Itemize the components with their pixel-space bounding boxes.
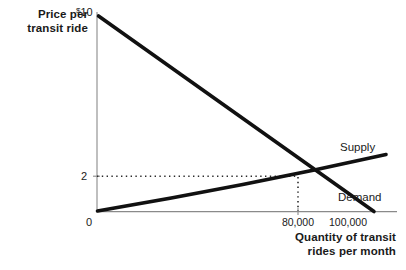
x-axis-title: Quantity of transitrides per month bbox=[295, 231, 396, 258]
y-axis-tick-label-2: 2 bbox=[81, 170, 87, 183]
y-axis-title-line2: transit ride bbox=[27, 22, 88, 34]
x-axis-tick-label-80000: 80,000 bbox=[275, 216, 321, 228]
chart-background bbox=[0, 0, 406, 270]
x-axis-title-line1: Quantity of transit bbox=[295, 231, 396, 243]
x-axis-title-line2: rides per month bbox=[308, 245, 396, 257]
y-axis-tick-label-10: $10 bbox=[76, 6, 93, 19]
y-axis-tick-value-10: 10 bbox=[80, 6, 92, 18]
supply-curve-label: Supply bbox=[340, 141, 375, 155]
supply-demand-chart: Price pertransit ride Quantity of transi… bbox=[0, 0, 406, 270]
demand-curve-label: Demand bbox=[338, 191, 381, 205]
x-axis-tick-label-100000: 100,000 bbox=[322, 216, 374, 228]
chart-plot-area bbox=[0, 0, 406, 270]
y-axis-tick-label-0: 0 bbox=[86, 216, 92, 229]
